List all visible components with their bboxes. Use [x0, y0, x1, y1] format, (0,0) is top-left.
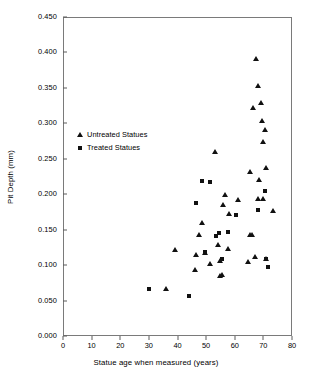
legend-label-treated: Treated Statues	[87, 143, 140, 152]
x-tick-label: 10	[88, 341, 96, 350]
y-tick-label: 0.150	[38, 226, 57, 234]
y-tick-mark	[63, 229, 67, 230]
data-point-untreated	[260, 196, 266, 201]
y-tick-label: 0.400	[38, 48, 57, 56]
data-point-untreated	[222, 192, 228, 197]
data-point-untreated	[245, 259, 251, 264]
data-point-untreated	[199, 220, 205, 225]
x-tick-mark	[234, 336, 235, 340]
plot-data-area	[63, 17, 292, 336]
data-point-treated	[203, 250, 207, 254]
data-point-untreated	[253, 56, 259, 61]
data-point-treated	[187, 294, 191, 298]
data-point-untreated	[193, 252, 199, 257]
data-point-untreated	[163, 286, 169, 291]
data-point-untreated	[259, 118, 265, 123]
data-point-untreated	[249, 232, 255, 237]
data-point-untreated	[270, 208, 276, 213]
data-point-untreated	[219, 272, 225, 277]
data-point-treated	[217, 231, 221, 235]
x-tick-label: 50	[202, 341, 210, 350]
y-tick-mark	[63, 265, 67, 266]
data-point-treated	[263, 189, 267, 193]
x-tick-mark	[292, 336, 293, 340]
data-point-untreated	[226, 211, 232, 216]
data-point-untreated	[263, 165, 269, 170]
data-point-treated	[264, 257, 268, 261]
x-tick-mark	[177, 336, 178, 340]
x-axis-title: Statue age when measured (years)	[0, 358, 312, 367]
data-point-untreated	[255, 83, 261, 88]
data-point-treated	[266, 265, 270, 269]
data-point-untreated	[212, 149, 218, 154]
data-point-untreated	[220, 202, 226, 207]
data-point-treated	[208, 180, 212, 184]
data-point-untreated	[215, 242, 221, 247]
data-point-treated	[256, 208, 260, 212]
legend-item-untreated: Untreated Statues	[75, 128, 165, 141]
data-point-treated	[226, 230, 230, 234]
y-axis-title: Pit Depth (mm)	[6, 150, 15, 204]
data-point-untreated	[250, 105, 256, 110]
data-point-untreated	[252, 254, 258, 259]
data-point-untreated	[196, 232, 202, 237]
y-tick-mark	[63, 17, 67, 18]
data-point-untreated	[262, 127, 268, 132]
data-point-untreated	[235, 197, 241, 202]
data-point-untreated	[225, 246, 231, 251]
data-point-treated	[220, 257, 224, 261]
triangle-marker-icon	[75, 132, 84, 137]
x-tick-label: 80	[288, 341, 296, 350]
x-tick-mark	[206, 336, 207, 340]
data-point-treated	[147, 287, 151, 291]
x-tick-mark	[120, 336, 121, 340]
y-tick-mark	[63, 158, 67, 159]
y-tick-label: 0.350	[38, 84, 57, 92]
y-tick-mark	[63, 300, 67, 301]
data-point-untreated	[247, 169, 253, 174]
data-point-untreated	[258, 100, 264, 105]
x-tick-mark	[91, 336, 92, 340]
y-tick-mark	[63, 87, 67, 88]
x-tick-mark	[148, 336, 149, 340]
data-point-treated	[200, 179, 204, 183]
x-tick-label: 0	[61, 341, 65, 350]
data-point-treated	[194, 201, 198, 205]
data-point-untreated	[192, 267, 198, 272]
x-tick-label: 70	[259, 341, 267, 350]
y-tick-mark	[63, 336, 67, 337]
x-tick-label: 60	[231, 341, 239, 350]
y-tick-label: 0.100	[38, 261, 57, 269]
y-tick-label: 0.450	[38, 13, 57, 21]
data-point-untreated	[207, 261, 213, 266]
y-axis-title-wrapper: Pit Depth (mm)	[2, 17, 18, 336]
y-tick-label: 0.000	[38, 332, 57, 340]
legend-item-treated: Treated Statues	[75, 141, 165, 154]
x-tick-mark	[63, 336, 64, 340]
x-tick-label: 40	[173, 341, 181, 350]
data-point-untreated	[256, 177, 262, 182]
y-tick-label: 0.200	[38, 190, 57, 198]
y-tick-mark	[63, 123, 67, 124]
y-tick-mark	[63, 52, 67, 53]
legend-label-untreated: Untreated Statues	[87, 130, 147, 139]
x-tick-label: 20	[116, 341, 124, 350]
data-point-untreated	[172, 247, 178, 252]
square-marker-icon	[75, 146, 84, 150]
y-tick-mark	[63, 194, 67, 195]
x-tick-label: 30	[145, 341, 153, 350]
y-tick-label: 0.300	[38, 119, 57, 127]
x-tick-mark	[263, 336, 264, 340]
y-tick-label: 0.050	[38, 297, 57, 305]
data-point-untreated	[260, 139, 266, 144]
data-point-treated	[234, 213, 238, 217]
x-axis-tick-labels: 01020304050607080	[0, 341, 312, 353]
chart-legend: Untreated Statues Treated Statues	[75, 128, 165, 154]
scatter-plot-figure: 0.0000.0500.1000.1500.2000.2500.3000.350…	[0, 0, 312, 382]
y-tick-label: 0.250	[38, 155, 57, 163]
